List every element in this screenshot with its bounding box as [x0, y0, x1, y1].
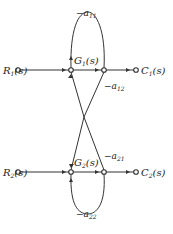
- signal-flow-graph: R1(s) C1(s) R2(s) C2(s) G1(s) G2(s) −a11…: [0, 0, 173, 234]
- arrow-icon: [126, 68, 130, 72]
- node-n1: [69, 68, 74, 73]
- label-a12: −a12: [104, 81, 125, 92]
- arrow-icon: [126, 170, 130, 174]
- label-a11: −a11: [76, 8, 97, 19]
- edge-a21-cross: [71, 72, 104, 170]
- node-c1: [134, 68, 139, 73]
- arrow-icon: [62, 68, 66, 72]
- label-a21: −a21: [104, 151, 125, 162]
- label-g2: G2(s): [74, 157, 99, 169]
- node-n4: [102, 170, 107, 175]
- node-n3: [69, 170, 74, 175]
- edge-a22-loop: [71, 174, 104, 214]
- label-a22: −a22: [76, 209, 97, 220]
- label-c1: C1(s): [141, 65, 166, 77]
- label-g1: G1(s): [74, 55, 99, 67]
- arrow-icon: [69, 56, 73, 60]
- label-c2: C2(s): [141, 167, 166, 179]
- arrow-icon: [69, 178, 73, 182]
- arrow-icon: [95, 68, 99, 72]
- label-r2: R2(s): [2, 167, 27, 179]
- node-c2: [134, 170, 139, 175]
- arrow-icon: [62, 170, 66, 174]
- arrow-icon: [95, 170, 99, 174]
- label-r1: R1(s): [2, 65, 27, 77]
- edge-a12-cross: [71, 72, 104, 170]
- node-n2: [102, 68, 107, 73]
